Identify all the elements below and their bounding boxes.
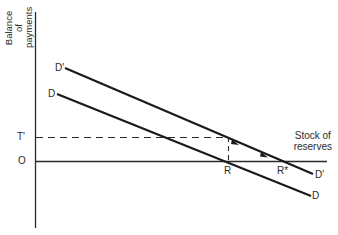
x-axis-label-line1: Stock of <box>294 130 332 141</box>
dprime-end-label: D' <box>315 169 324 180</box>
tprime-label: T' <box>17 131 25 142</box>
rstar-label: R* <box>277 165 288 176</box>
x-axis-label: Stock of reserves <box>294 130 332 152</box>
curve-d <box>57 94 311 196</box>
r-label: R <box>224 165 231 176</box>
d-start-label: D <box>48 88 55 99</box>
y-axis-label-line1: Balance of <box>4 8 24 48</box>
x-axis-label-line2: reserves <box>294 141 332 152</box>
y-axis-label: Balance of payments <box>4 8 34 48</box>
dprime-start-label: D' <box>55 62 64 73</box>
curve-dprime <box>65 68 313 174</box>
origin-label: O <box>18 155 26 166</box>
diagram-canvas <box>0 0 338 235</box>
y-axis-label-line2: payments <box>24 8 34 48</box>
d-end-label: D <box>312 190 319 201</box>
